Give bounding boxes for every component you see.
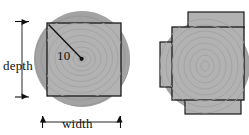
center-dot-left: [80, 57, 84, 61]
depth-label: depth: [3, 58, 33, 74]
right-diagram-group: [159, 12, 249, 114]
wood-cross-section-figure: depth width 10: [0, 0, 249, 135]
radius-label: 10: [57, 48, 70, 64]
figure-canvas: [0, 0, 249, 135]
width-label: width: [62, 116, 93, 132]
